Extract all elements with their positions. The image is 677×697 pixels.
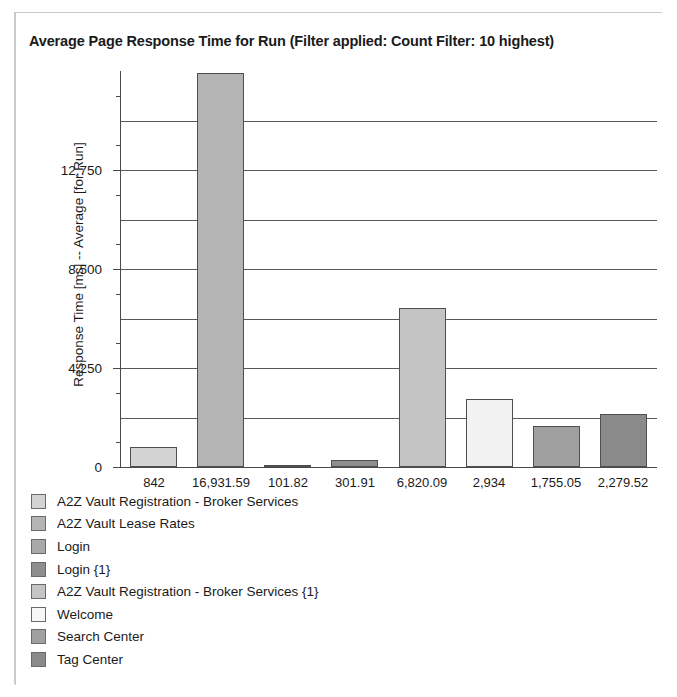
y-axis-tick-label: 4,250: [68, 361, 102, 376]
bar[interactable]: [264, 465, 311, 467]
bar[interactable]: [130, 447, 177, 467]
y-axis-tick-label: 12,750: [61, 163, 102, 178]
y-minor-tick-6: [116, 145, 121, 146]
y-axis-tick-label: 0: [94, 460, 102, 475]
x-axis-tick-label: 301.91: [335, 475, 375, 490]
y-minor-tick-0: [116, 442, 121, 443]
y-minor-tick-2: [116, 343, 121, 344]
x-axis-tick-label: 1,755.05: [531, 475, 582, 490]
legend-swatch-icon: [31, 584, 46, 599]
legend-swatch-icon: [31, 539, 46, 554]
bar[interactable]: [399, 308, 446, 467]
legend-item[interactable]: A2Z Vault Registration - Broker Services: [31, 490, 651, 513]
legend-swatch-icon: [31, 562, 46, 577]
legend-item-label: A2Z Vault Registration - Broker Services…: [57, 584, 319, 599]
y-major-tick-0: 0: [113, 467, 121, 468]
y-major-tick-2: 8,500: [113, 269, 121, 270]
y-minor-tick-7: [116, 96, 121, 97]
x-axis-tick-label: 2,279.52: [598, 475, 649, 490]
chart-legend: A2Z Vault Registration - Broker Services…: [31, 490, 651, 671]
legend-item[interactable]: Search Center: [31, 626, 651, 649]
legend-item[interactable]: Login {1}: [31, 558, 651, 581]
legend-item[interactable]: A2Z Vault Lease Rates: [31, 513, 651, 536]
legend-swatch-icon: [31, 607, 46, 622]
x-axis-tick-label: 842: [143, 475, 165, 490]
bar[interactable]: [533, 426, 580, 467]
plot-area: 04,2508,50012,75084216,931.59101.82301.9…: [120, 71, 657, 468]
x-axis-line: [120, 467, 657, 468]
y-minor-tick-5: [116, 195, 121, 196]
y-major-tick-3: 12,750: [113, 170, 121, 171]
legend-item[interactable]: A2Z Vault Registration - Broker Services…: [31, 580, 651, 603]
y-major-tick-1: 4,250: [113, 368, 121, 369]
legend-item[interactable]: Welcome: [31, 603, 651, 626]
legend-swatch-icon: [31, 516, 46, 531]
legend-item-label: Tag Center: [57, 652, 123, 667]
bar[interactable]: [466, 399, 513, 467]
legend-swatch-icon: [31, 629, 46, 644]
legend-item-label: Login {1}: [57, 562, 110, 577]
y-minor-tick-4: [116, 244, 121, 245]
x-axis-tick-label: 16,931.59: [192, 475, 250, 490]
y-minor-tick-3: [116, 294, 121, 295]
legend-item-label: Login: [57, 539, 90, 554]
legend-item-label: A2Z Vault Registration - Broker Services: [57, 494, 298, 509]
legend-item-label: A2Z Vault Lease Rates: [57, 516, 195, 531]
chart-panel: Average Page Response Time for Run (Filt…: [14, 12, 662, 684]
bar[interactable]: [600, 414, 647, 467]
legend-swatch-icon: [31, 652, 46, 667]
bar[interactable]: [331, 460, 378, 467]
legend-item[interactable]: Login: [31, 535, 651, 558]
x-axis-tick-label: 6,820.09: [397, 475, 448, 490]
y-axis-tick-label: 8,500: [68, 262, 102, 277]
legend-item-label: Welcome: [57, 607, 113, 622]
legend-swatch-icon: [31, 494, 46, 509]
x-axis-tick-label: 2,934: [473, 475, 506, 490]
bar[interactable]: [197, 73, 244, 467]
x-axis-tick-label: 101.82: [268, 475, 308, 490]
legend-item[interactable]: Tag Center: [31, 648, 651, 671]
legend-item-label: Search Center: [57, 629, 144, 644]
y-minor-tick-1: [116, 393, 121, 394]
